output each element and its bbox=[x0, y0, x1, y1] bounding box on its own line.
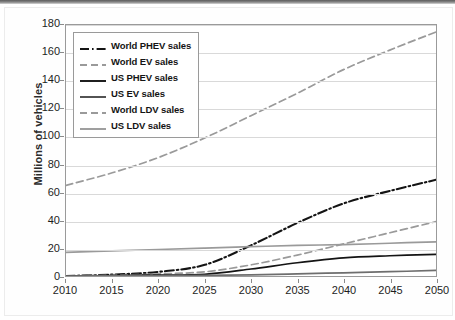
x-tick-mark bbox=[65, 279, 66, 283]
y-tick-mark bbox=[60, 52, 64, 53]
legend-label: World EV sales bbox=[111, 56, 178, 67]
x-tick-label: 2010 bbox=[53, 284, 77, 296]
x-tick-label: 2015 bbox=[99, 284, 123, 296]
x-tick-mark bbox=[112, 279, 113, 283]
x-tick-mark bbox=[298, 279, 299, 283]
legend-item: World LDV sales bbox=[79, 101, 191, 117]
legend-label: US PHEV sales bbox=[111, 72, 178, 83]
y-tick-label: 160 bbox=[16, 45, 60, 57]
x-tick-mark bbox=[205, 279, 206, 283]
grid-line bbox=[66, 166, 436, 167]
y-axis-ticks: 020406080100120140160180 bbox=[10, 24, 60, 277]
y-tick-mark bbox=[60, 277, 64, 278]
legend-swatch-icon bbox=[79, 40, 107, 51]
grid-line bbox=[66, 222, 436, 223]
y-tick-mark bbox=[60, 249, 64, 250]
y-tick-mark bbox=[60, 193, 64, 194]
y-tick-label: 80 bbox=[16, 158, 60, 170]
y-tick-label: 20 bbox=[16, 242, 60, 254]
y-tick-label: 40 bbox=[16, 214, 60, 226]
x-tick-mark bbox=[251, 279, 252, 283]
y-tick-label: 60 bbox=[16, 186, 60, 198]
series-line bbox=[66, 222, 436, 276]
legend-swatch-icon bbox=[79, 88, 107, 99]
x-tick-mark bbox=[437, 279, 438, 283]
screenshot-root: Millions of vehicles 0204060801001201401… bbox=[0, 0, 455, 320]
y-tick-mark bbox=[60, 24, 64, 25]
legend-item: World PHEV sales bbox=[79, 37, 191, 53]
legend-label: World PHEV sales bbox=[111, 40, 191, 51]
y-tick-label: 0 bbox=[16, 270, 60, 282]
y-tick-mark bbox=[60, 136, 64, 137]
chart-figure: Millions of vehicles 0204060801001201401… bbox=[10, 10, 445, 310]
legend-label: US EV sales bbox=[111, 88, 165, 99]
y-tick-label: 100 bbox=[16, 129, 60, 141]
x-tick-mark bbox=[391, 279, 392, 283]
scan-artifact-band bbox=[0, 0, 455, 4]
y-tick-mark bbox=[60, 221, 64, 222]
x-tick-label: 2040 bbox=[332, 284, 356, 296]
chart-legend: World PHEV salesWorld EV salesUS PHEV sa… bbox=[73, 32, 199, 138]
legend-swatch-icon bbox=[79, 56, 107, 67]
x-tick-label: 2035 bbox=[285, 284, 309, 296]
y-tick-label: 180 bbox=[16, 17, 60, 29]
legend-label: World LDV sales bbox=[111, 104, 184, 115]
y-tick-mark bbox=[60, 80, 64, 81]
y-tick-label: 120 bbox=[16, 101, 60, 113]
legend-item: World EV sales bbox=[79, 53, 191, 69]
legend-item: US LDV sales bbox=[79, 117, 191, 133]
x-axis-ticks: 201020152020202520302035204020452050 bbox=[65, 279, 437, 303]
legend-item: US PHEV sales bbox=[79, 69, 191, 85]
x-tick-label: 2045 bbox=[378, 284, 402, 296]
grid-line bbox=[66, 25, 436, 26]
x-tick-label: 2025 bbox=[192, 284, 216, 296]
legend-swatch-icon bbox=[79, 104, 107, 115]
legend-swatch-icon bbox=[79, 120, 107, 131]
grid-line bbox=[66, 250, 436, 251]
grid-line bbox=[66, 194, 436, 195]
x-tick-label: 2020 bbox=[146, 284, 170, 296]
legend-swatch-icon bbox=[79, 72, 107, 83]
y-tick-mark bbox=[60, 108, 64, 109]
x-tick-label: 2050 bbox=[425, 284, 449, 296]
x-tick-mark bbox=[344, 279, 345, 283]
legend-label: US LDV sales bbox=[111, 120, 171, 131]
x-tick-label: 2030 bbox=[239, 284, 263, 296]
x-tick-mark bbox=[158, 279, 159, 283]
y-tick-label: 140 bbox=[16, 73, 60, 85]
legend-item: US EV sales bbox=[79, 85, 191, 101]
y-tick-mark bbox=[60, 165, 64, 166]
